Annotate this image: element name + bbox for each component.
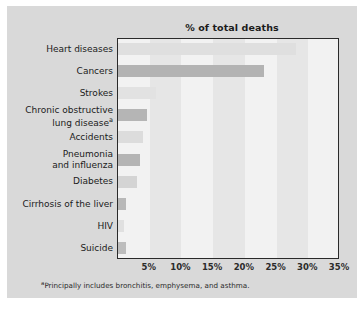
bar (118, 131, 143, 143)
bar (118, 176, 137, 188)
bar-row (118, 238, 339, 258)
bar (118, 43, 296, 55)
category-label: Cirrhosis of the liver (13, 199, 113, 210)
chart-title: % of total deaths (117, 22, 347, 33)
category-label: Chronic obstructivelung diseasea (13, 105, 113, 129)
bar-series (118, 39, 338, 258)
category-axis-labels: Heart diseasesCancersStrokesChronic obst… (13, 38, 113, 259)
bar (118, 109, 147, 121)
plot-area (117, 38, 339, 259)
chart-footnote: aPrincipally includes bronchitis, emphys… (41, 280, 250, 290)
bar-row (118, 172, 339, 192)
bar-row (118, 150, 339, 170)
bar (118, 87, 156, 99)
bar (118, 154, 140, 166)
category-label: Suicide (13, 243, 113, 254)
bar-row (118, 127, 339, 147)
category-label: Pneumoniaand influenza (13, 149, 113, 170)
bar-row (118, 105, 339, 125)
bar (118, 198, 126, 210)
bar-row (118, 61, 339, 81)
category-label: HIV (13, 221, 113, 232)
chart-figure: % of total deaths Heart diseasesCancersS… (7, 6, 357, 298)
footnote-marker-icon: a (109, 116, 113, 124)
bar-row (118, 83, 339, 103)
category-label: Strokes (13, 88, 113, 99)
bar (118, 242, 126, 254)
category-label: Cancers (13, 66, 113, 77)
x-axis-ticks: 5%10%15%20%25%30%35% (117, 262, 339, 276)
footnote-text: Principally includes bronchitis, emphyse… (44, 281, 249, 290)
x-tick-label: 35% (319, 262, 359, 272)
category-label: Heart diseases (13, 44, 113, 55)
bar-row (118, 216, 339, 236)
bar (118, 65, 264, 77)
category-label: Diabetes (13, 176, 113, 187)
bar-row (118, 194, 339, 214)
bar-row (118, 39, 339, 59)
category-label: Accidents (13, 132, 113, 143)
bar (118, 220, 124, 232)
